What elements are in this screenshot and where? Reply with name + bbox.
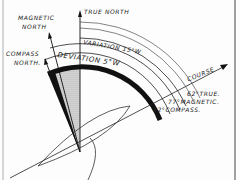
true-north-arrow-icon: [78, 10, 82, 17]
compass-north-label-2: NORTH.: [14, 59, 41, 66]
variation-wedge: [55, 70, 80, 152]
true-course-label: 62°TRUE.: [187, 90, 220, 97]
compass-north-label-1: COMPASS: [6, 50, 39, 57]
magnetic-course-label: 77°MAGNETIC.: [168, 98, 220, 105]
magnetic-north-arrow-icon: [48, 32, 52, 39]
true-north-label: TRUE NORTH: [84, 8, 129, 15]
magnetic-north-label-2: NORTH: [22, 23, 47, 30]
compass-course-label: 82°COMPASS.: [153, 106, 201, 113]
compass-correction-diagram: MAGNETIC NORTH TRUE NORTH COMPASS NORTH.…: [0, 0, 240, 180]
course-arrow-icon: [220, 64, 228, 70]
boat-hull: [38, 106, 130, 166]
magnetic-north-label-1: MAGNETIC: [18, 14, 55, 21]
boat-bow: [88, 138, 96, 180]
